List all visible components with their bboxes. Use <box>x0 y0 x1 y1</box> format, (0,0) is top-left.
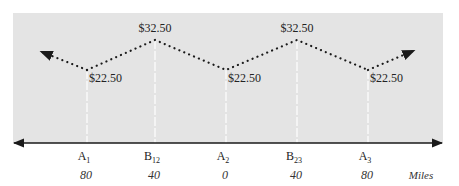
distance-label-b23: 40 <box>290 168 302 182</box>
price-label-a1: $22.50 <box>89 71 122 85</box>
unit-label: Miles <box>408 169 433 181</box>
price-label-b23: $32.50 <box>281 21 314 35</box>
price-distance-diagram: $22.50A180$32.50B1240$22.50A20$32.50B234… <box>0 0 459 186</box>
distance-label-a2: 0 <box>222 168 228 182</box>
location-label-a1: A1 <box>78 149 91 165</box>
price-label-a3: $22.50 <box>370 71 403 85</box>
distance-label-a3: 80 <box>361 168 373 182</box>
distance-label-b12: 40 <box>148 168 160 182</box>
location-label-b12: B12 <box>144 149 160 165</box>
price-label-b12: $32.50 <box>139 21 172 35</box>
location-label-b23: B23 <box>286 149 302 165</box>
location-label-a3: A3 <box>359 149 372 165</box>
location-label-a2: A2 <box>217 149 230 165</box>
distance-label-a1: 80 <box>80 168 92 182</box>
price-label-a2: $22.50 <box>228 71 261 85</box>
